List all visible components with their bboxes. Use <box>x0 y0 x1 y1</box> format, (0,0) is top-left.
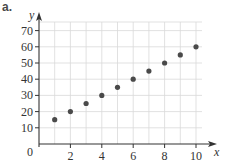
x-tick-label: 8 <box>162 149 168 163</box>
data-point <box>115 85 120 90</box>
data-point <box>146 69 151 74</box>
grid-lines <box>39 22 202 144</box>
x-tick-label: 2 <box>67 149 73 163</box>
data-points <box>52 44 198 122</box>
x-tick-label: 6 <box>130 149 136 163</box>
tick-marks: 24681010203040506070 <box>21 24 202 163</box>
data-point <box>99 93 104 98</box>
y-tick-label: 40 <box>21 72 33 86</box>
data-point <box>131 77 136 82</box>
y-axis-label: y <box>28 8 35 22</box>
origin-label: 0 <box>27 145 33 159</box>
y-tick-label: 20 <box>21 105 33 119</box>
data-point <box>84 101 89 106</box>
y-tick-label: 10 <box>21 121 33 135</box>
data-point <box>52 117 57 122</box>
x-tick-label: 4 <box>99 149 105 163</box>
y-tick-label: 60 <box>21 40 33 54</box>
y-tick-label: 30 <box>21 88 33 102</box>
data-point <box>193 44 198 49</box>
data-point <box>162 60 167 65</box>
data-point <box>178 52 183 57</box>
y-tick-label: 50 <box>21 56 33 70</box>
x-tick-label: 10 <box>190 149 202 163</box>
scatter-chart: xy0 24681010203040506070 <box>0 0 229 164</box>
y-tick-label: 70 <box>21 24 33 38</box>
x-axis-label: x <box>213 145 220 159</box>
data-point <box>68 109 73 114</box>
